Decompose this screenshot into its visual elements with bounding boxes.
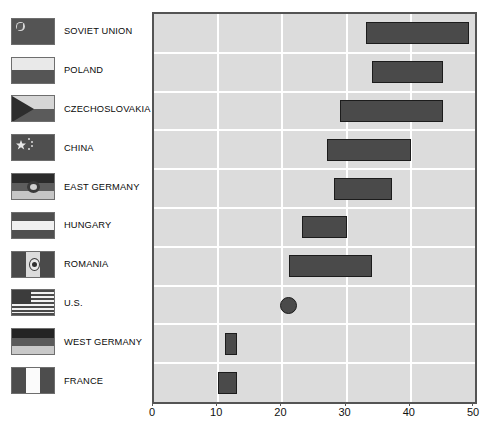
flag-china-icon: [11, 134, 55, 161]
legend-row-east-germany: EAST GERMANY: [0, 167, 152, 206]
x-axis-tick-label: 0: [149, 406, 155, 418]
flag-soviet-union-icon: [11, 18, 55, 45]
horizontal-gridline: [154, 323, 475, 325]
plot-inner: [154, 14, 475, 402]
legend-row-china: CHINA: [0, 128, 152, 167]
country-label: FRANCE: [64, 376, 103, 386]
country-label: POLAND: [64, 65, 103, 75]
horizontal-gridline: [154, 285, 475, 287]
country-label: ROMANIA: [64, 259, 108, 269]
x-axis-tick-label: 40: [403, 406, 415, 418]
x-axis: 01020304050: [152, 402, 473, 424]
horizontal-gridline: [154, 91, 475, 93]
horizontal-gridline: [154, 362, 475, 364]
range-bar: [218, 372, 237, 394]
x-axis-tick-label: 30: [338, 406, 350, 418]
legend-row-west-germany: WEST GERMANY: [0, 322, 152, 361]
vertical-gridline: [217, 14, 219, 402]
range-bar: [334, 178, 392, 200]
vertical-gridline: [281, 14, 283, 402]
range-bar: [366, 22, 469, 44]
flag-romania-icon: [11, 251, 55, 278]
plot-area: [152, 12, 477, 404]
legend-row-france: FRANCE: [0, 361, 152, 400]
horizontal-gridline: [154, 168, 475, 170]
flag-east-germany-icon: [11, 173, 55, 200]
country-label: SOVIET UNION: [64, 26, 132, 36]
country-label: EAST GERMANY: [64, 182, 140, 192]
flag-west-germany-icon: [11, 328, 55, 355]
legend-row-romania: ROMANIA: [0, 245, 152, 284]
country-label: WEST GERMANY: [64, 337, 142, 347]
range-bar: [340, 100, 443, 122]
range-bar: [372, 61, 443, 83]
legend-row-soviet-union: SOVIET UNION: [0, 12, 152, 51]
horizontal-gridline: [154, 207, 475, 209]
legend-row-poland: POLAND: [0, 51, 152, 90]
country-label: CHINA: [64, 143, 94, 153]
legend-row-united-states: U.S.: [0, 284, 152, 323]
legend-row-hungary: HUNGARY: [0, 206, 152, 245]
flag-czechoslovakia-icon: [11, 95, 55, 122]
flag-hungary-icon: [11, 212, 55, 239]
country-legend-column: SOVIET UNION POLAND CZECHOSLOVAKIA: [0, 12, 152, 400]
country-label: HUNGARY: [64, 220, 111, 230]
data-point-marker: [280, 297, 297, 314]
country-label: U.S.: [64, 298, 83, 308]
x-axis-tick-label: 10: [210, 406, 222, 418]
vertical-gridline: [346, 14, 348, 402]
flag-poland-icon: [11, 57, 55, 84]
range-bar: [289, 255, 372, 277]
x-axis-tick-label: 50: [467, 406, 479, 418]
country-label: CZECHOSLOVAKIA: [64, 104, 151, 114]
range-bar-chart: SOVIET UNION POLAND CZECHOSLOVAKIA: [0, 0, 502, 428]
flag-france-icon: [11, 367, 55, 394]
range-bar: [327, 139, 410, 161]
horizontal-gridline: [154, 52, 475, 54]
flag-united-states-icon: [11, 289, 55, 316]
legend-row-czechoslovakia: CZECHOSLOVAKIA: [0, 90, 152, 129]
horizontal-gridline: [154, 246, 475, 248]
horizontal-gridline: [154, 129, 475, 131]
x-axis-tick-label: 20: [274, 406, 286, 418]
range-bar: [302, 216, 347, 238]
range-bar: [225, 333, 238, 355]
